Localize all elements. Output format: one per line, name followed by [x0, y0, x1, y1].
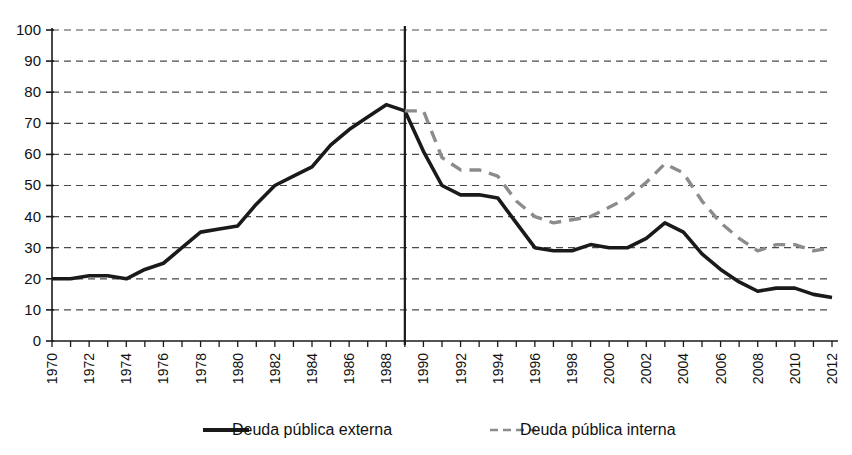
x-tick-labels: 1970197219741976197819801982198419861988… [44, 353, 840, 384]
x-tick-label: 1992 [453, 353, 469, 384]
x-tick-label: 2002 [638, 353, 654, 384]
series-line [52, 105, 832, 298]
x-tick-label: 2006 [713, 353, 729, 384]
x-tick-label: 1970 [44, 353, 60, 384]
x-tick-label: 1980 [230, 353, 246, 384]
x-tick-label: 1976 [155, 353, 171, 384]
x-axis [52, 341, 838, 347]
y-tick-label: 20 [24, 270, 41, 287]
gridlines [52, 30, 832, 310]
y-axis [46, 28, 54, 341]
x-tick-label: 1990 [415, 353, 431, 384]
x-tick-label: 1974 [118, 353, 134, 384]
x-tick-label: 2010 [787, 353, 803, 384]
y-tick-label: 90 [24, 52, 41, 69]
x-tick-label: 1984 [304, 353, 320, 384]
x-tick-label: 2000 [601, 353, 617, 384]
series-lines [52, 105, 832, 298]
line-chart: 0102030405060708090100 19701972197419761… [0, 0, 852, 455]
x-tick-label: 2004 [675, 353, 691, 384]
x-tick-label: 1996 [527, 353, 543, 384]
x-tick-label: 1998 [564, 353, 580, 384]
x-tick-label: 1982 [267, 353, 283, 384]
series-line [405, 111, 832, 251]
x-tick-label: 1988 [378, 353, 394, 384]
x-tick-label: 1972 [81, 353, 97, 384]
x-tick-label: 2008 [750, 353, 766, 384]
y-tick-label: 0 [33, 332, 41, 349]
chart-container: 0102030405060708090100 19701972197419761… [0, 0, 852, 455]
y-tick-labels: 0102030405060708090100 [16, 21, 41, 349]
y-tick-label: 10 [24, 301, 41, 318]
x-tick-label: 1986 [341, 353, 357, 384]
legend-label: Deuda pública interna [520, 421, 676, 438]
chart-legend: Deuda pública externaDeuda pública inter… [203, 421, 676, 438]
y-tick-label: 80 [24, 83, 41, 100]
y-tick-label: 70 [24, 114, 41, 131]
x-tick-label: 1978 [193, 353, 209, 384]
x-tick-label: 1994 [490, 353, 506, 384]
y-tick-label: 30 [24, 239, 41, 256]
legend-label: Deuda pública externa [232, 421, 392, 438]
y-tick-label: 100 [16, 21, 41, 38]
x-tick-label: 2012 [824, 353, 840, 384]
y-tick-label: 60 [24, 145, 41, 162]
y-tick-label: 40 [24, 208, 41, 225]
y-tick-label: 50 [24, 176, 41, 193]
